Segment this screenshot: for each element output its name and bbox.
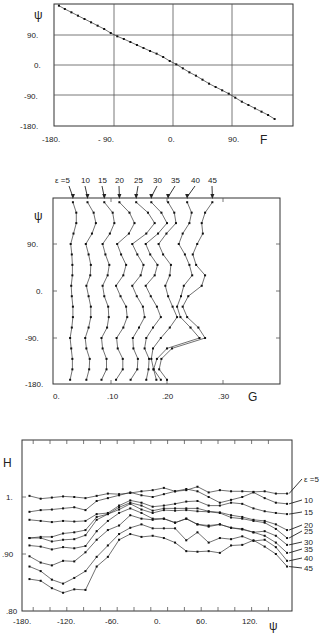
data-point <box>264 490 266 492</box>
data-point <box>196 507 198 509</box>
data-point <box>230 490 232 492</box>
data-point <box>163 507 165 509</box>
data-point <box>163 505 165 507</box>
data-point <box>28 495 30 497</box>
data-point <box>174 503 176 505</box>
data-point <box>110 32 112 34</box>
series-line <box>154 202 200 380</box>
data-point <box>252 539 254 541</box>
data-point <box>230 514 232 516</box>
data-point <box>128 212 130 214</box>
x-axis-label: F <box>260 133 267 147</box>
data-point <box>158 368 160 370</box>
data-point <box>261 111 263 113</box>
data-point <box>64 8 66 10</box>
data-point <box>208 511 210 513</box>
data-point <box>116 35 118 37</box>
series-line <box>102 202 115 380</box>
y-axis-label: ψ <box>34 8 43 22</box>
data-point <box>72 233 74 235</box>
data-point <box>77 15 79 17</box>
data-point <box>118 201 120 203</box>
data-point <box>134 222 136 224</box>
data-point <box>73 577 75 579</box>
data-point <box>275 523 277 525</box>
data-point <box>286 552 288 554</box>
data-point <box>228 93 230 95</box>
data-point <box>219 505 221 507</box>
data-point <box>62 532 64 534</box>
data-point <box>72 316 74 318</box>
data-point <box>230 538 232 540</box>
data-point <box>140 502 142 504</box>
data-point <box>28 555 30 557</box>
data-point <box>153 368 155 370</box>
data-point <box>73 521 75 523</box>
data-point <box>160 316 162 318</box>
data-point <box>51 540 53 542</box>
y-axis-label: ψ <box>34 209 43 223</box>
data-point <box>160 358 162 360</box>
data-point <box>185 518 187 520</box>
data-point <box>160 337 162 339</box>
data-point <box>208 491 210 493</box>
data-point <box>85 285 87 287</box>
x-tick-90: 90. <box>228 135 239 144</box>
data-point <box>241 490 243 492</box>
data-point <box>196 523 198 525</box>
data-point <box>172 306 174 308</box>
data-point <box>174 510 176 512</box>
data-point <box>275 512 277 514</box>
data-point <box>196 531 198 533</box>
data-point <box>117 347 119 349</box>
data-point <box>145 285 147 287</box>
data-point <box>170 264 172 266</box>
data-point <box>175 222 177 224</box>
x-tick-020: .20 <box>162 392 174 401</box>
data-point <box>219 489 221 491</box>
y-tick-minus90: -90. <box>24 92 38 101</box>
data-point <box>142 306 144 308</box>
series-line <box>30 515 288 565</box>
data-point <box>275 493 277 495</box>
data-point <box>187 295 189 297</box>
data-point <box>129 41 131 43</box>
y-tick-90: 90. <box>27 240 38 249</box>
data-point <box>122 274 124 276</box>
data-point <box>169 327 171 329</box>
epsilon-label: 40 <box>191 176 200 185</box>
data-point <box>118 509 120 511</box>
data-point <box>183 285 185 287</box>
series-line <box>30 534 288 593</box>
x-tick-010: .10 <box>107 392 119 401</box>
data-point <box>96 556 98 558</box>
epsilon-label: 45 <box>208 176 217 185</box>
data-point <box>51 536 53 538</box>
data-point <box>135 201 137 203</box>
data-point <box>167 201 169 203</box>
data-point <box>188 264 190 266</box>
data-point <box>157 233 159 235</box>
data-point <box>195 75 197 77</box>
data-point <box>122 368 124 370</box>
data-point <box>71 274 73 276</box>
data-point <box>71 253 73 255</box>
data-point <box>131 243 133 245</box>
data-point <box>184 253 186 255</box>
data-point <box>132 347 134 349</box>
data-point <box>122 327 124 329</box>
data-point <box>136 295 138 297</box>
series-line <box>145 202 167 380</box>
data-point <box>71 368 73 370</box>
data-point <box>129 533 131 535</box>
data-point <box>174 507 176 509</box>
data-point <box>88 368 90 370</box>
data-point <box>182 67 184 69</box>
epsilon-label: 30 <box>153 176 162 185</box>
epsilon-legend: ε =51015202530354045 <box>289 475 319 573</box>
data-point <box>96 519 98 521</box>
data-point <box>107 544 109 546</box>
data-point <box>156 264 158 266</box>
data-point <box>51 548 53 550</box>
data-point <box>118 525 120 527</box>
